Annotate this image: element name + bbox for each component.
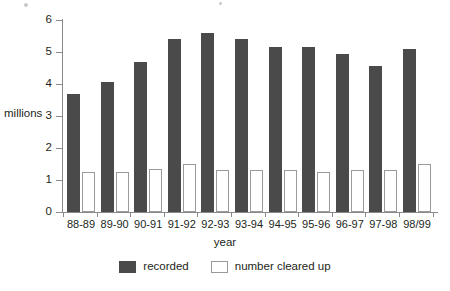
- x-tick-89-90: [97, 212, 98, 217]
- y-tick-label-0: 0: [0, 206, 52, 218]
- x-tick-97-98: [365, 212, 366, 217]
- bar-cleared-93-94: [250, 170, 263, 212]
- scan-speck: [219, 2, 222, 5]
- bar-group: [67, 20, 95, 212]
- bar-cleared-98/99: [418, 164, 431, 212]
- y-tick-1: [56, 180, 62, 181]
- bar-cleared-89-90: [116, 172, 129, 212]
- x-axis-label-98/99: 98/99: [397, 219, 437, 230]
- legend-label: recorded: [143, 261, 188, 273]
- bar-cleared-92-93: [216, 170, 229, 212]
- bar-recorded-90-91: [134, 62, 147, 212]
- bar-recorded-89-90: [101, 82, 114, 212]
- bar-group: [134, 20, 162, 212]
- y-tick-label-1: 1: [0, 174, 52, 186]
- bar-recorded-94-95: [269, 47, 282, 212]
- legend-swatch-icon: [211, 261, 228, 273]
- bar-group: [101, 20, 129, 212]
- y-tick-label-6: 6: [0, 14, 52, 26]
- bar-group: [201, 20, 229, 212]
- bar-recorded-92-93: [201, 33, 214, 212]
- x-tick-92-93: [197, 212, 198, 217]
- bar-recorded-88-89: [67, 94, 80, 212]
- bar-cleared-95-96: [317, 172, 330, 212]
- y-tick-label-2: 2: [0, 142, 52, 154]
- bar-recorded-95-96: [302, 47, 315, 212]
- scan-speck: [24, 3, 28, 7]
- x-tick-90-91: [130, 212, 131, 217]
- bar-group: [168, 20, 196, 212]
- x-tick-98/99: [399, 212, 400, 217]
- bar-cleared-97-98: [384, 170, 397, 212]
- y-tick-2: [56, 148, 62, 149]
- y-tick-label-4: 4: [0, 78, 52, 90]
- bar-recorded-91-92: [168, 39, 181, 212]
- bar-cleared-88-89: [82, 172, 95, 212]
- y-tick-0: [56, 212, 62, 213]
- x-tick-95-96: [298, 212, 299, 217]
- legend-item-cleared: number cleared up: [211, 261, 331, 273]
- bar-recorded-96-97: [336, 54, 349, 212]
- legend-swatch-icon: [119, 261, 136, 273]
- chart-legend: recordednumber cleared up: [0, 261, 450, 273]
- bar-group: [403, 20, 431, 212]
- x-tick-end: [433, 212, 434, 217]
- x-tick-96-97: [332, 212, 333, 217]
- bar-recorded-93-94: [235, 39, 248, 212]
- y-tick-3: [56, 116, 62, 117]
- y-axis-title: millions: [4, 108, 56, 120]
- bar-group: [336, 20, 364, 212]
- bar-recorded-98/99: [403, 49, 416, 212]
- y-tick-label-5: 5: [0, 46, 52, 58]
- y-tick-4: [56, 84, 62, 85]
- bar-recorded-97-98: [369, 66, 382, 212]
- x-axis-line: [62, 212, 438, 213]
- bar-cleared-96-97: [351, 170, 364, 212]
- bar-chart: 6543210 millions 88-8989-9090-9191-9292-…: [0, 0, 450, 291]
- x-tick-93-94: [231, 212, 232, 217]
- legend-item-recorded: recorded: [119, 261, 188, 273]
- bar-cleared-90-91: [149, 169, 162, 212]
- bar-cleared-94-95: [284, 170, 297, 212]
- plot-area: [63, 20, 436, 212]
- legend-label: number cleared up: [235, 261, 331, 273]
- bar-group: [269, 20, 297, 212]
- x-tick-91-92: [164, 212, 165, 217]
- bar-group: [369, 20, 397, 212]
- x-tick-94-95: [265, 212, 266, 217]
- bar-group: [302, 20, 330, 212]
- y-tick-5: [56, 52, 62, 53]
- bar-group: [235, 20, 263, 212]
- y-tick-6: [56, 20, 62, 21]
- bar-cleared-91-92: [183, 164, 196, 212]
- x-axis-title: year: [0, 236, 450, 248]
- x-tick-88-89: [63, 212, 64, 217]
